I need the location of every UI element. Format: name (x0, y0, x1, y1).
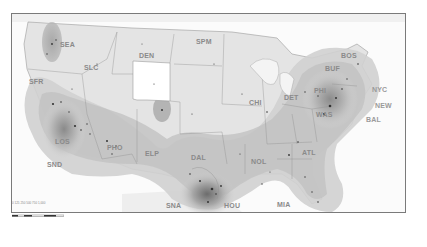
label-elp: ELP (145, 150, 159, 157)
label-dal: DAL (191, 154, 206, 161)
label-chi: CHI (249, 99, 262, 106)
label-pho: PHO (107, 144, 123, 151)
label-snd: SND (47, 161, 62, 168)
label-mia: MIA (277, 201, 290, 208)
label-nyc: NYC (372, 86, 387, 93)
label-hou: HOU (224, 202, 240, 209)
label-bal: BAL (366, 116, 381, 123)
label-was: WAS (316, 111, 333, 118)
label-buf: BUF (325, 65, 340, 72)
label-new: NEW (375, 102, 392, 109)
label-los: LOS (55, 138, 70, 145)
label-phi: PHI (314, 87, 326, 94)
scale-bar: 0 125 250 500 750 1,000 (12, 206, 64, 212)
scale-bar-ticks: 0 125 250 500 750 1,000 (12, 201, 45, 205)
label-sfr: SFR (29, 78, 44, 85)
label-bos: BOS (341, 52, 357, 59)
label-sea: SEA (60, 41, 75, 48)
label-slc: SLC (84, 64, 99, 71)
label-den: DEN (139, 52, 154, 59)
label-det: DET (284, 94, 299, 101)
label-nol: NOL (251, 158, 266, 165)
label-atl: ATL (302, 149, 316, 156)
label-sna: SNA (166, 202, 181, 209)
scale-bar-graphic (12, 214, 64, 220)
label-spm: SPM (196, 38, 212, 45)
